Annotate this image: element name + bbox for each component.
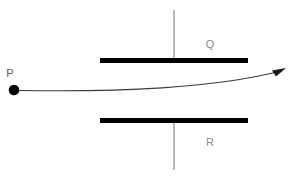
capacitor-deflection-figure: P Q R <box>0 0 297 178</box>
source-particle-dot <box>9 85 20 96</box>
bottom-plate-r-bar <box>100 118 248 123</box>
physics-diagram-canvas: P Q R <box>0 0 297 178</box>
plate-r-label: R <box>206 136 214 148</box>
top-plate-q-bar <box>100 58 248 63</box>
point-p-label: P <box>6 67 13 79</box>
plate-q-label: Q <box>206 38 215 50</box>
